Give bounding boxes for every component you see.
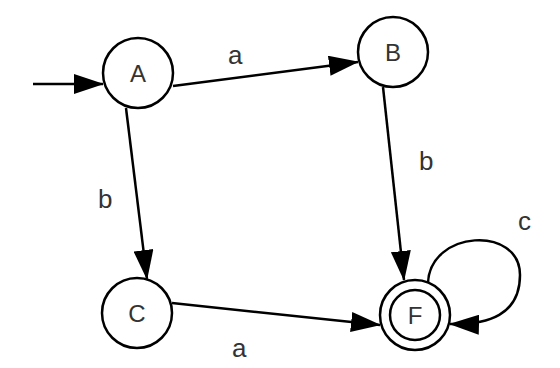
edge-label-a-to-c: b	[98, 184, 112, 214]
state-f-label: F	[408, 302, 423, 329]
edge-a-to-b	[173, 62, 358, 86]
edge-label-b-to-f: b	[419, 146, 433, 176]
automaton-diagram: a b b a c A B C F	[0, 0, 560, 368]
state-c-label: C	[128, 300, 145, 327]
edge-label-c-to-f: a	[232, 333, 247, 363]
edge-a-to-c	[126, 108, 147, 279]
state-a: A	[103, 38, 173, 108]
state-b: B	[358, 17, 428, 87]
edge-label-a-to-b: a	[228, 40, 243, 70]
edge-label-f-loop: c	[518, 206, 531, 236]
edge-c-to-f	[172, 303, 380, 325]
edge-b-to-f	[383, 87, 404, 280]
state-c: C	[102, 278, 172, 348]
state-b-label: B	[385, 39, 401, 66]
state-f: F	[380, 280, 450, 350]
state-a-label: A	[130, 60, 146, 87]
